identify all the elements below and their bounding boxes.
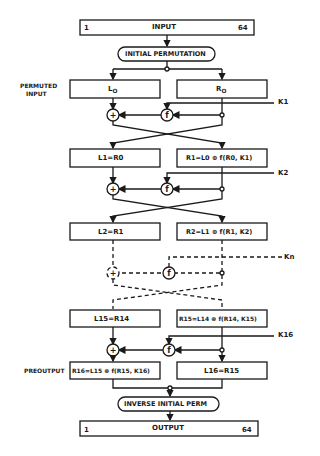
input-label: INPUT: [152, 23, 176, 31]
output-label: OUTPUT: [152, 424, 184, 432]
input-end: 64: [238, 24, 248, 32]
output-end: 64: [242, 426, 252, 434]
kn-label: Kn: [284, 253, 294, 261]
permuted-input-label-2: INPUT: [26, 90, 47, 97]
k2-label: K2: [278, 169, 288, 177]
l2-label: L2=R1: [98, 228, 123, 236]
l16-label: L16=R15: [204, 367, 239, 375]
k1-label: K1: [278, 98, 288, 106]
r15-label: R15=L14 ⊕ f(R14, K15): [179, 315, 257, 322]
r16-label: R16=L15 ⊕ f(R15, K16): [72, 367, 150, 374]
l1-label: L1=R0: [98, 154, 123, 162]
r2-label: R2=L1 ⊕ f(R1, K2): [186, 228, 252, 236]
output-start: 1: [84, 426, 89, 434]
inverse-permutation-label: INVERSE INITIAL PERM: [124, 400, 207, 408]
r1-label: R1=L0 ⊕ f(R0, K1): [186, 154, 252, 162]
l0-label: LO: [108, 85, 117, 94]
l15-label: L15=R14: [94, 315, 129, 323]
initial-permutation-label: INITIAL PERMUTATION: [125, 50, 206, 58]
input-start: 1: [84, 24, 89, 32]
r0-label: RO: [216, 85, 226, 94]
permuted-input-label: PERMUTED: [20, 82, 57, 89]
k16-label: K16: [278, 331, 293, 339]
preoutput-label: PREOUTPUT: [24, 367, 65, 374]
